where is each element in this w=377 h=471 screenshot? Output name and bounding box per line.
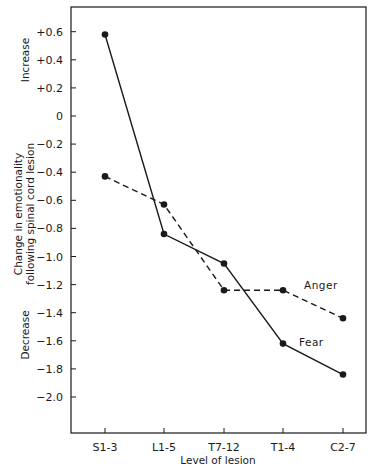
increase-label: Increase [19, 38, 31, 82]
y-tick-label: −0.4 [36, 166, 63, 179]
y-tick-label: −1.2 [36, 279, 63, 292]
decrease-label: Decrease [19, 310, 31, 359]
x-tick-label: S1-3 [93, 441, 118, 454]
data-point [221, 287, 228, 294]
x-axis-title: Level of lesion [180, 454, 255, 466]
y-axis-title-line1: Change in emotionality [12, 153, 24, 275]
data-point [161, 201, 168, 208]
x-axis-ticks: S1-3L1-5T7-12T1-4C2-7 [93, 428, 356, 454]
y-tick-label: −1.8 [36, 363, 63, 376]
x-tick-label: C2-7 [330, 441, 356, 454]
series-line [105, 35, 343, 375]
data-point [102, 173, 109, 180]
y-tick-label: −1.6 [36, 335, 63, 348]
y-axis-ticks: +0.6+0.4+0.20−0.2−0.4−0.6−0.8−1.0−1.2−1.… [36, 26, 76, 404]
data-point [340, 315, 347, 322]
fear-label: Fear [299, 336, 324, 348]
y-tick-label: −0.6 [36, 194, 63, 207]
x-tick-label: L1-5 [152, 441, 176, 454]
data-point [280, 287, 287, 294]
y-axis-title-line2: following spinal cord lesion [24, 143, 36, 285]
y-tick-label: −0.2 [36, 138, 63, 151]
data-series: AngerFear [102, 31, 347, 378]
series-fear [102, 31, 347, 378]
y-tick-label: +0.6 [36, 26, 63, 39]
data-point [340, 371, 347, 378]
series-line [105, 176, 343, 318]
y-tick-label: −1.0 [36, 251, 63, 264]
x-tick-label: T1-4 [270, 441, 296, 454]
line-chart: +0.6+0.4+0.20−0.2−0.4−0.6−0.8−1.0−1.2−1.… [0, 0, 377, 471]
series-anger [102, 173, 347, 322]
y-tick-label: +0.2 [36, 82, 63, 95]
y-tick-label: −0.8 [36, 222, 63, 235]
y-tick-label: 0 [56, 110, 63, 123]
data-point [280, 340, 287, 347]
y-tick-label: +0.4 [36, 54, 63, 67]
data-point [161, 231, 168, 238]
anger-label: Anger [304, 279, 338, 291]
x-tick-label: T7-12 [207, 441, 240, 454]
data-point [102, 31, 109, 38]
data-point [221, 260, 228, 267]
y-tick-label: −2.0 [36, 391, 63, 404]
y-tick-label: −1.4 [36, 307, 63, 320]
